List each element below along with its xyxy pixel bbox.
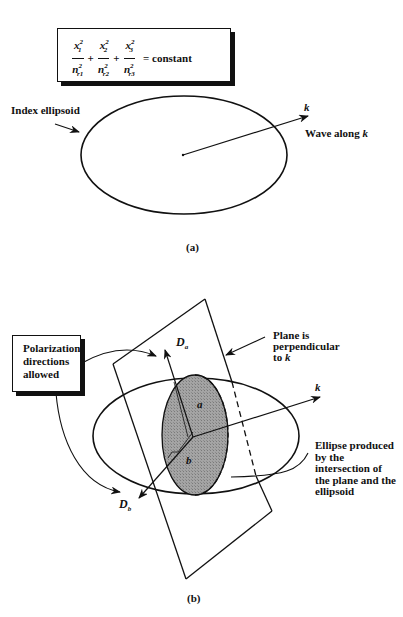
- plus-sign: +: [113, 52, 119, 64]
- polarization-pointer-db: [56, 393, 120, 492]
- k-label-b: k: [315, 381, 321, 393]
- wave-along-k-label: Wave along k: [305, 127, 368, 139]
- equation-term-3: x23 n2r3: [124, 35, 136, 82]
- polarization-pointer-da: [82, 350, 156, 363]
- index-ellipsoid-label: Index ellipsoid: [11, 104, 80, 116]
- ellipse-produced-label: Ellipse produced by the intersection of …: [315, 440, 396, 498]
- plane-label-pointer: [226, 337, 265, 355]
- intersection-ellipse: [162, 375, 228, 495]
- db-label: Db: [119, 498, 131, 515]
- plane-edge-right-upper: [205, 299, 232, 382]
- plane-edge-top: [113, 299, 205, 364]
- equation-box: x21 n2r1 + x22 n2r2 + x23 n2r3 = constan…: [57, 28, 231, 82]
- plane-edge-bottom: [186, 511, 272, 579]
- plus-sign: +: [88, 52, 94, 64]
- equation-term-2: x22 n2r2: [98, 35, 110, 82]
- index-ellipsoid-pointer: [55, 124, 79, 132]
- caption-a: (a): [186, 241, 199, 253]
- b-label: b: [186, 454, 192, 466]
- a-label: a: [197, 398, 203, 410]
- caption-b: (b): [187, 592, 200, 604]
- diagram-canvas: [0, 0, 403, 617]
- da-label: Da: [176, 336, 188, 353]
- figure-a: [55, 96, 308, 214]
- equation-term-1: x21 n2r1: [72, 35, 84, 82]
- plane-edge-right-lower: [256, 476, 272, 511]
- polarization-box: Polarization directions allowed: [12, 335, 81, 392]
- equation-rhs: = constant: [143, 52, 192, 64]
- plane-perpendicular-label: Plane is perpendicular to k: [273, 330, 340, 363]
- wave-vector-k-a: [183, 116, 308, 155]
- k-label-a: k: [304, 101, 310, 113]
- plane-edge-right-hidden: [232, 382, 256, 476]
- ellipse-label-pointer: [231, 453, 308, 477]
